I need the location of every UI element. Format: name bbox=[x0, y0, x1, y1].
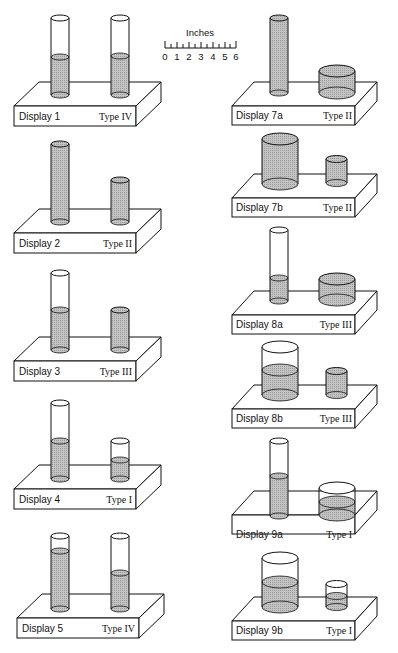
tick-4: 4 bbox=[210, 51, 215, 62]
cylinder-small bbox=[326, 368, 347, 399]
display-label: Display 7a bbox=[236, 110, 283, 121]
cylinder-right bbox=[111, 15, 129, 98]
cylinder-wide bbox=[262, 341, 298, 401]
display-label: Display 3 bbox=[19, 366, 61, 377]
cylinder-right bbox=[111, 177, 129, 225]
cylinder-right bbox=[111, 307, 129, 353]
type-label: Type IV bbox=[99, 111, 133, 122]
inch-scale: Inches 0 1 2 3 4 5 6 bbox=[162, 27, 238, 62]
display-8a: Display 8a Type III bbox=[232, 227, 377, 334]
cylinder-tall bbox=[270, 15, 288, 96]
cylinder-wide bbox=[262, 133, 298, 190]
cylinder-left bbox=[51, 15, 69, 98]
display-9a: Display 9a Type I bbox=[232, 438, 377, 540]
cylinder-right bbox=[111, 438, 129, 482]
cylinder-wide bbox=[319, 65, 355, 99]
display-label: Display 7b bbox=[236, 202, 283, 213]
display-label: Display 9a bbox=[236, 529, 283, 540]
cylinder-displays-diagram: Inches 0 1 2 3 4 5 6 bbox=[0, 0, 398, 653]
tick-5: 5 bbox=[222, 51, 227, 62]
display-label: Display 8b bbox=[236, 413, 283, 424]
display-label: Display 9b bbox=[236, 625, 283, 636]
cylinder-right bbox=[111, 533, 129, 612]
display-7a: Display 7a Type II bbox=[232, 15, 377, 125]
display-label: Display 8a bbox=[236, 319, 283, 330]
cylinder-wide bbox=[319, 482, 355, 521]
type-label: Type II bbox=[103, 238, 132, 249]
cylinder-tall bbox=[270, 438, 288, 519]
display-9b: Display 9b Type I bbox=[232, 552, 377, 640]
tick-3: 3 bbox=[198, 51, 203, 62]
display-5: Display 5 Type IV bbox=[17, 533, 164, 638]
tick-2: 2 bbox=[186, 51, 191, 62]
cylinder-small bbox=[326, 156, 347, 187]
cylinder-left bbox=[51, 141, 69, 225]
type-label: Type III bbox=[320, 413, 352, 424]
type-label: Type I bbox=[326, 625, 352, 636]
type-label: Type II bbox=[323, 110, 352, 121]
display-1: Display 1 Type IV bbox=[14, 15, 161, 126]
tick-0: 0 bbox=[162, 51, 167, 62]
tick-6: 6 bbox=[233, 51, 238, 62]
display-4: Display 4 Type I bbox=[14, 400, 161, 509]
display-label: Display 4 bbox=[19, 494, 61, 505]
cylinder-tall bbox=[270, 227, 288, 304]
type-label: Type II bbox=[323, 202, 352, 213]
display-label: Display 1 bbox=[19, 111, 61, 122]
scale-title: Inches bbox=[186, 27, 214, 38]
cylinder-left bbox=[51, 533, 69, 612]
cylinder-wide bbox=[319, 273, 355, 306]
cylinder-left bbox=[51, 400, 69, 482]
cylinder-small bbox=[326, 581, 347, 611]
display-2: Display 2 Type II bbox=[14, 141, 161, 253]
display-7b: Display 7b Type II bbox=[232, 133, 377, 217]
display-label: Display 5 bbox=[22, 623, 64, 634]
cylinder-wide bbox=[262, 552, 298, 613]
tick-1: 1 bbox=[174, 51, 179, 62]
type-label: Type I bbox=[326, 529, 352, 540]
type-label: Type III bbox=[320, 319, 352, 330]
cylinder-left bbox=[51, 270, 69, 353]
display-8b: Display 8b Type III bbox=[232, 341, 377, 428]
type-label: Type I bbox=[106, 494, 132, 505]
type-label: Type III bbox=[100, 366, 132, 377]
display-label: Display 2 bbox=[19, 238, 61, 249]
type-label: Type IV bbox=[102, 623, 136, 634]
display-3: Display 3 Type III bbox=[14, 270, 161, 381]
